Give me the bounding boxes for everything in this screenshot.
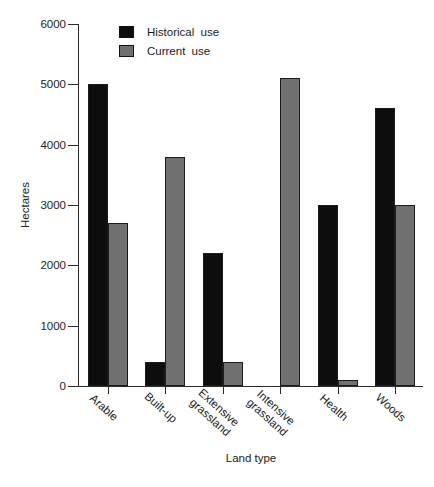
- x-tick-label: Built-up: [142, 390, 179, 425]
- y-tick-label: 4000: [20, 138, 66, 152]
- legend-item-current-use: Current use: [119, 44, 219, 57]
- y-tick-label: 1000: [20, 319, 66, 333]
- x-tick-label: Intensive grassland: [245, 386, 299, 438]
- bar-historical-use-4: [318, 205, 338, 386]
- y-tick-label: 2000: [20, 258, 66, 272]
- bar-chart-figure: Historical use Current use Hectares Land…: [0, 0, 434, 487]
- x-tick-label: Extensive grassland: [188, 386, 242, 438]
- x-axis-tick: [108, 387, 109, 394]
- bar-current-use-2: [223, 362, 243, 386]
- bar-historical-use-2: [203, 253, 223, 386]
- bar-current-use-5: [395, 205, 415, 386]
- chart-legend: Historical use Current use: [119, 25, 219, 63]
- x-axis-tick: [338, 387, 339, 394]
- y-axis-line: [78, 24, 79, 387]
- bar-historical-use-0: [88, 84, 108, 386]
- x-tick-label: Arable: [87, 392, 120, 424]
- y-tick-label: 3000: [20, 198, 66, 212]
- x-tick-label: Woods: [373, 391, 408, 424]
- x-axis-title: Land type: [226, 452, 277, 464]
- bar-current-use-1: [165, 157, 185, 386]
- legend-item-historical-use: Historical use: [119, 25, 219, 38]
- legend-swatch-current-use: [119, 45, 134, 57]
- y-axis-tick: [68, 326, 78, 327]
- y-axis-tick: [68, 265, 78, 266]
- legend-label-current-use: Current use: [147, 45, 210, 57]
- bar-current-use-3: [280, 78, 300, 386]
- x-axis-tick: [280, 387, 281, 394]
- y-axis-tick: [68, 145, 78, 146]
- y-tick-label: 5000: [20, 77, 66, 91]
- y-tick-label: 6000: [20, 17, 66, 31]
- y-tick-label: 0: [20, 379, 66, 393]
- y-axis-tick: [68, 84, 78, 85]
- y-axis-tick: [68, 386, 78, 387]
- bar-historical-use-1: [145, 362, 165, 386]
- x-axis-tick: [395, 387, 396, 394]
- legend-swatch-historical-use: [119, 26, 134, 38]
- x-axis-line: [78, 386, 423, 387]
- bar-current-use-4: [338, 380, 358, 386]
- y-axis-tick: [68, 205, 78, 206]
- y-axis-tick: [68, 24, 78, 25]
- x-axis-tick: [223, 387, 224, 394]
- bar-current-use-0: [108, 223, 128, 386]
- x-axis-tick: [165, 387, 166, 394]
- legend-label-historical-use: Historical use: [147, 26, 219, 38]
- x-tick-label: Health: [317, 392, 350, 424]
- bar-historical-use-5: [375, 108, 395, 386]
